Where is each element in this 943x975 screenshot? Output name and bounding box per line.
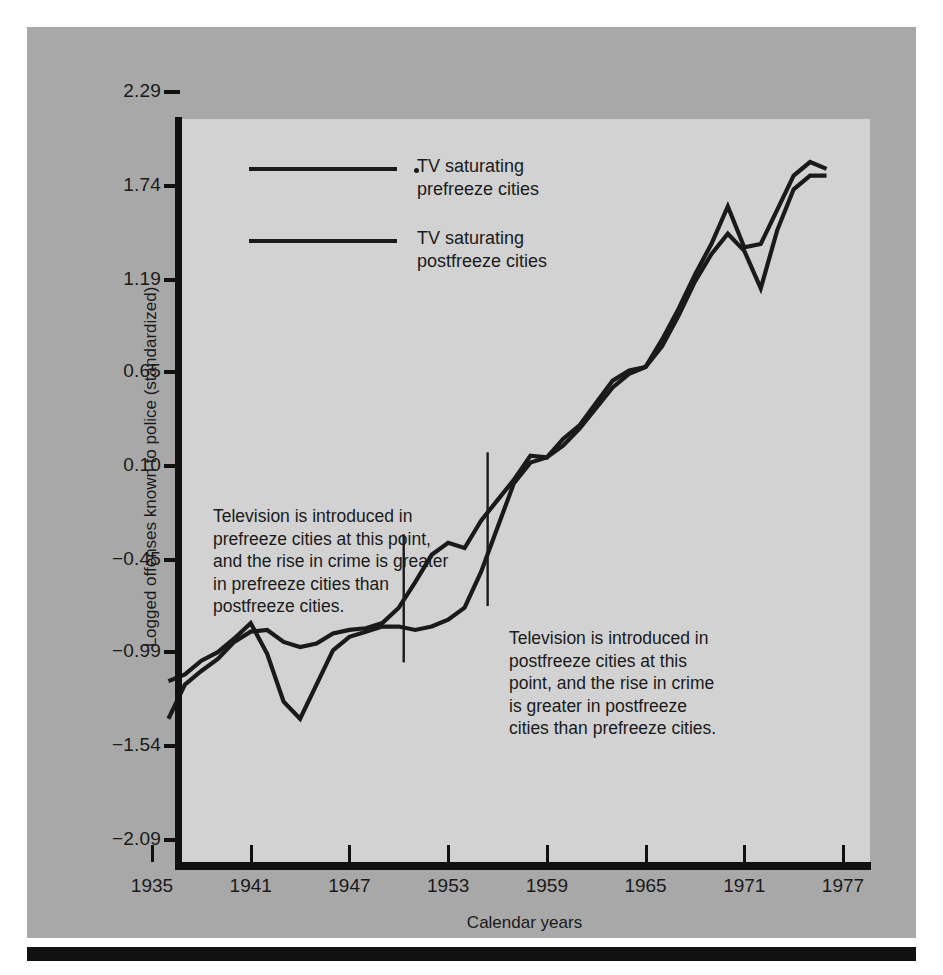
y-tick [164, 370, 180, 374]
y-tick [164, 90, 180, 94]
annotation-prefreeze: Television is introduced in prefreeze ci… [213, 505, 513, 618]
x-tick [348, 845, 351, 862]
x-tick-label: 1935 [112, 875, 192, 897]
legend-swatch-line-postfreeze [249, 239, 397, 243]
legend: TV saturating prefreeze cities TV satura… [249, 167, 579, 293]
x-tick [546, 845, 549, 862]
x-tick-label: 1971 [704, 875, 784, 897]
x-tick [645, 845, 648, 862]
x-tick-label: 1953 [408, 875, 488, 897]
annotation-postfreeze: Television is introduced in postfreeze c… [509, 627, 809, 740]
legend-swatch-line-prefreeze [249, 167, 397, 171]
x-tick-label: 1941 [211, 875, 291, 897]
legend-label-postfreeze: TV saturating postfreeze cities [417, 227, 547, 273]
x-axis-title: Calendar years [179, 913, 870, 933]
y-tick [164, 558, 180, 562]
y-tick [164, 184, 180, 188]
y-tick-label: 1.74 [69, 174, 161, 196]
y-tick [164, 744, 180, 748]
figure-root: 2.291.741.190.650.10−0.45−0.99−1.54−2.09… [0, 0, 943, 975]
y-tick [164, 278, 180, 282]
x-tick-label: 1959 [507, 875, 587, 897]
y-tick [164, 650, 180, 654]
y-axis-title: Logged offenses known to police (standar… [141, 257, 161, 677]
y-tick-label: −1.54 [69, 734, 161, 756]
x-tick-label: 1965 [606, 875, 686, 897]
y-tick-label: −2.09 [69, 828, 161, 850]
x-tick [842, 845, 845, 862]
legend-item-postfreeze: TV saturating postfreeze cities [249, 239, 579, 293]
y-tick-label: 2.29 [69, 80, 161, 102]
y-tick [164, 838, 180, 842]
figure-panel: 2.291.741.190.650.10−0.45−0.99−1.54−2.09… [27, 27, 916, 938]
x-tick [743, 845, 746, 862]
x-tick-label: 1947 [309, 875, 389, 897]
x-axis-line [175, 862, 871, 870]
legend-item-prefreeze: TV saturating prefreeze cities [249, 167, 579, 221]
x-tick-label: 1977 [803, 875, 883, 897]
y-axis-title-holder: Logged offenses known to police (standar… [89, 27, 113, 927]
x-tick [250, 845, 253, 862]
x-tick [447, 845, 450, 862]
y-axis-line [175, 117, 182, 869]
y-tick [164, 464, 180, 468]
x-tick [151, 845, 154, 862]
legend-label-prefreeze: TV saturating prefreeze cities [417, 155, 539, 201]
footer-rule [27, 947, 916, 961]
